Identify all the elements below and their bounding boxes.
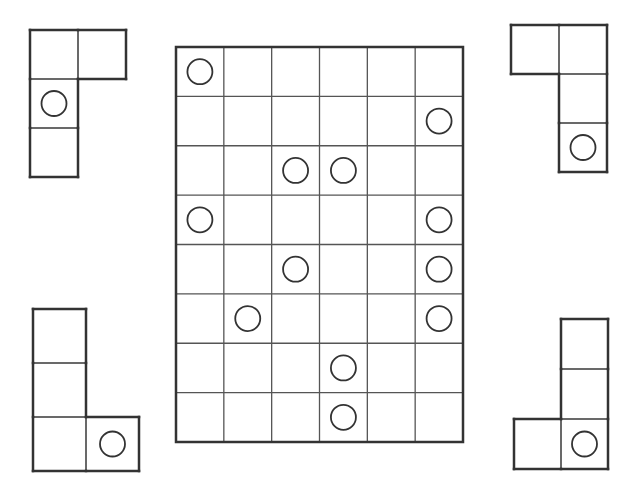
piece-cell: [33, 309, 86, 363]
piece-cell: [30, 128, 78, 177]
piece-top-left: [30, 30, 126, 177]
circle-marker: [427, 257, 452, 282]
piece-bottom-left: [33, 309, 139, 471]
circle-marker: [100, 432, 125, 457]
piece-cell: [561, 369, 608, 419]
circle-marker: [427, 207, 452, 232]
circle-marker: [283, 158, 308, 183]
piece-cell: [33, 363, 86, 417]
circle-marker: [283, 257, 308, 282]
circle-marker: [572, 432, 597, 457]
circle-marker: [571, 135, 596, 160]
piece-cell: [561, 319, 608, 369]
circle-marker: [235, 306, 260, 331]
circle-marker: [331, 158, 356, 183]
circle-marker: [427, 109, 452, 134]
circle-marker: [331, 405, 356, 430]
piece-cell: [30, 79, 78, 128]
piece-cell: [33, 417, 86, 471]
piece-cell: [559, 74, 607, 123]
piece-cell: [511, 25, 559, 74]
main-grid-board: [176, 47, 463, 442]
puzzle-diagram: [0, 0, 640, 496]
piece-top-right: [511, 25, 607, 172]
circle-marker: [187, 207, 212, 232]
circle-marker: [42, 91, 67, 116]
piece-cell: [514, 419, 561, 469]
piece-cell: [559, 25, 607, 74]
piece-cell: [559, 123, 607, 172]
piece-cell: [78, 30, 126, 79]
piece-cell: [561, 419, 608, 469]
circle-marker: [427, 306, 452, 331]
circle-marker: [187, 59, 212, 84]
piece-cell: [86, 417, 139, 471]
piece-cell: [30, 30, 78, 79]
circle-marker: [331, 355, 356, 380]
piece-bottom-right: [514, 319, 608, 469]
